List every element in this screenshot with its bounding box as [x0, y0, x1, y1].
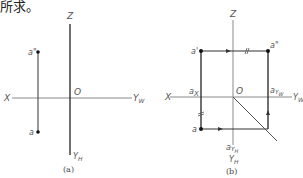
- label-a: a: [192, 125, 197, 134]
- label-z: Z: [66, 11, 74, 21]
- label-o: O: [74, 87, 81, 97]
- label-yw: YW: [293, 93, 303, 103]
- label-x: X: [3, 93, 11, 103]
- arrow-icon: [218, 127, 223, 131]
- label-ax: aX: [189, 87, 199, 98]
- label-x: X: [164, 92, 172, 102]
- point-a: [36, 130, 40, 134]
- label-yh: YH: [229, 155, 239, 165]
- label-ayh: aYH: [226, 143, 239, 154]
- label-yh: YH: [73, 152, 83, 162]
- label-o: O: [236, 86, 243, 96]
- caption-a: (a): [63, 165, 74, 174]
- label-yw: YW: [133, 93, 146, 104]
- point-a-double-prime: [36, 50, 40, 54]
- label-a: a: [29, 128, 34, 137]
- point-a-prime: [199, 49, 203, 53]
- label-z: Z: [229, 9, 237, 19]
- figure-b: Z X O YW a' a" a aX aYW aYH YH (b): [164, 9, 303, 176]
- arrow-icon: [266, 110, 270, 115]
- caption-b: (b): [226, 167, 237, 176]
- figure-a: Z X O YW YH a" a (a): [3, 11, 146, 174]
- label-a-double-prime: a": [28, 48, 37, 57]
- miter-line-45: [233, 97, 277, 141]
- label-ayw: aYW: [270, 86, 285, 97]
- label-a-prime: a': [191, 47, 198, 56]
- label-a-double-prime: a": [270, 41, 279, 50]
- arrow-icon: [226, 49, 231, 53]
- projection-diagram: Z X O YW YH a" a (a): [0, 0, 303, 178]
- point-a: [199, 127, 203, 131]
